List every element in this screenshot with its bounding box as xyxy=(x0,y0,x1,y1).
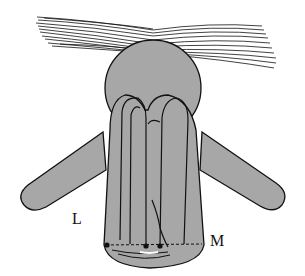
doll-illustration xyxy=(0,0,305,276)
label-l: L xyxy=(72,210,82,228)
label-m: M xyxy=(210,232,224,250)
doll-diagram: L M xyxy=(0,0,305,276)
